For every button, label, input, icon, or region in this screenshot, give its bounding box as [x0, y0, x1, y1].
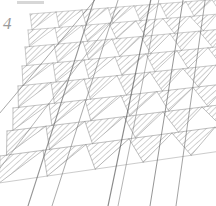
lattice-diagram [0, 0, 216, 206]
lattice-cell-hatched [56, 10, 82, 27]
lattice-cell-hatched [112, 36, 141, 56]
lattice-cell-hatched [55, 25, 82, 43]
figure-page: 4 [0, 0, 216, 206]
lattice-cell-hatched [109, 21, 136, 39]
lattice-cell-hatched [212, 0, 216, 14]
lattice-cell-hatched [186, 0, 212, 16]
lattice-cell-blank [215, 122, 216, 152]
lattice-diagonal [215, 127, 216, 148]
lattice-cell-hatched [84, 57, 115, 79]
guide-line-5 [150, 0, 184, 206]
lattice-cell-hatched [215, 122, 216, 149]
lattice-cell-hatched [199, 29, 216, 48]
lattice-cell-hatched [54, 42, 83, 63]
lattice-cell-hatched [115, 54, 146, 75]
lattice-diagonal [6, 131, 7, 155]
figure-number-label: 4 [3, 13, 21, 35]
